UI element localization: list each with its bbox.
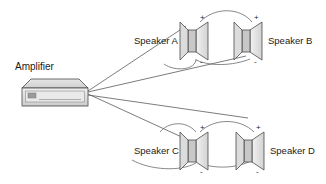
speaker-a-positive-terminal: + xyxy=(200,13,205,22)
speaker-d-label: Speaker D xyxy=(270,145,315,156)
speaker-c-positive-terminal: + xyxy=(200,123,205,132)
wire-amp-to-speaker-d xyxy=(88,95,248,118)
speaker-a-body xyxy=(188,30,196,52)
speaker-a-negative-terminal: - xyxy=(200,57,203,66)
speaker-b-negative-terminal: - xyxy=(254,57,257,66)
amplifier-top-face xyxy=(22,79,88,88)
speaker-d-cone xyxy=(252,132,264,170)
speaker-c-cone xyxy=(196,132,208,170)
speaker-d-positive-terminal: + xyxy=(256,123,261,132)
speaker-c-body xyxy=(188,140,196,162)
arc-negative-a-to-b xyxy=(196,59,250,65)
amplifier-icon[interactable] xyxy=(22,79,88,106)
amplifier-display xyxy=(28,93,36,98)
speaker-d-negative-terminal: - xyxy=(256,167,259,176)
speaker-d[interactable]: + - xyxy=(236,123,264,176)
diagram-canvas: Amplifier + - Speaker A + - Speaker B + … xyxy=(0,0,326,184)
speaker-a-cone xyxy=(196,22,208,60)
speaker-b-body xyxy=(242,30,250,52)
arc-positive-c-to-d xyxy=(200,122,254,133)
speaker-b-positive-terminal: + xyxy=(254,13,259,22)
wire-amp-to-speaker-b xyxy=(88,56,246,92)
speaker-c-label: Speaker C xyxy=(134,145,179,156)
speaker-a[interactable]: + - xyxy=(180,13,208,66)
speaker-c[interactable]: + - xyxy=(180,123,208,176)
arc-positive-c-loop xyxy=(160,124,196,132)
speaker-a-back-flare xyxy=(180,22,188,60)
amplifier-speaker-diagram: Amplifier + - Speaker A + - Speaker B + … xyxy=(0,0,326,184)
speaker-d-body xyxy=(244,140,252,162)
speaker-b-cone xyxy=(250,22,262,60)
speaker-c-negative-terminal: - xyxy=(200,167,203,176)
speaker-b-label: Speaker B xyxy=(268,35,312,46)
wire-amp-to-speaker-c xyxy=(88,94,186,139)
arc-positive-a-to-b xyxy=(200,11,252,22)
speaker-c-back-flare xyxy=(180,132,188,170)
amplifier-label: Amplifier xyxy=(15,61,55,72)
speaker-b-back-flare xyxy=(234,22,242,60)
speaker-a-label: Speaker A xyxy=(134,35,178,46)
